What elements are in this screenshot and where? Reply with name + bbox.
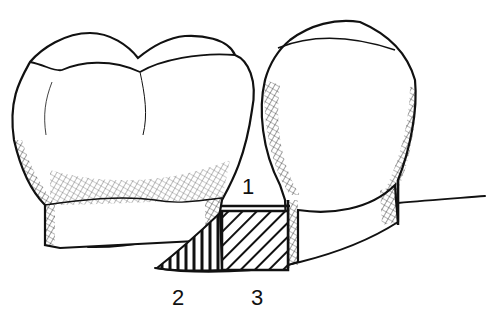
region-3-diagonal-hatch xyxy=(222,211,288,270)
label-2: 2 xyxy=(172,287,184,309)
teeth-diagram xyxy=(0,0,489,325)
label-1: 1 xyxy=(242,176,254,198)
label-3: 3 xyxy=(251,287,263,309)
